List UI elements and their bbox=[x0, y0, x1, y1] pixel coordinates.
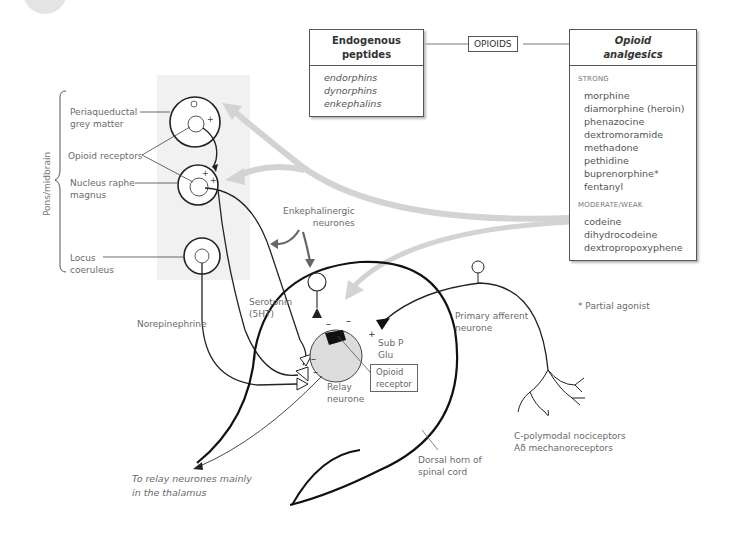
dorsal-horn-label: Dorsal horn of spinal cord bbox=[418, 454, 482, 478]
label-line: in the thalamus bbox=[132, 486, 252, 500]
drug-item: phenazocine bbox=[584, 115, 686, 128]
label-line: neurone bbox=[327, 393, 364, 405]
peptide-item: dynorphins bbox=[324, 84, 413, 97]
raphe-label: Nucleus raphe magnus bbox=[70, 177, 135, 201]
title-line: Endogenous bbox=[314, 34, 419, 48]
label-line: magnus bbox=[70, 189, 135, 201]
drug-item: dihydrocodeine bbox=[584, 228, 686, 241]
section-heading-moderate: MODERATE/WEAK bbox=[578, 199, 686, 212]
raphe-plus-2: + bbox=[210, 176, 217, 185]
label-line: To relay neurones mainly bbox=[132, 472, 252, 486]
drug-item: codeine bbox=[584, 215, 686, 228]
drug-item: fentanyl bbox=[584, 180, 686, 193]
label-line: Dorsal horn of bbox=[418, 454, 482, 466]
drug-item: pethidine bbox=[584, 154, 686, 167]
title-line: Opioid bbox=[574, 34, 692, 48]
enkephalinergic-curved-arrow-1 bbox=[275, 230, 299, 244]
primary-afferent-label: Primary afferent neurone bbox=[455, 310, 528, 334]
pons-midbrain-label: Pons/midbrain bbox=[42, 152, 52, 216]
label-line: (5HT) bbox=[249, 308, 292, 320]
title-line: peptides bbox=[314, 48, 419, 62]
relay-minus-2: – bbox=[346, 315, 351, 326]
raphe-plus-1: + bbox=[202, 169, 209, 178]
nociceptor-branches bbox=[518, 370, 585, 416]
drug-item: dextropropoxyphene bbox=[584, 241, 686, 254]
label-line: Locus bbox=[70, 252, 114, 264]
corner-decoration bbox=[23, 0, 67, 14]
label-line: Nucleus raphe bbox=[70, 177, 135, 189]
opioid-receptor-label: Opioid receptor bbox=[370, 364, 418, 392]
label-line: Aδ mechanoreceptors bbox=[514, 442, 626, 454]
enkephalinergic-terminal bbox=[312, 308, 322, 318]
thalamus-label: To relay neurones mainly in the thalamus bbox=[132, 472, 252, 500]
label-line: Primary afferent bbox=[455, 310, 528, 322]
dorsal-horn-lower bbox=[292, 450, 360, 505]
opioids-connector-label: OPIOIDS bbox=[468, 36, 518, 52]
subp-glu-label: Sub P Glu bbox=[378, 337, 403, 361]
label-line: Sub P bbox=[378, 337, 403, 349]
label-line: Relay bbox=[327, 381, 364, 393]
label-line: Enkephalinergic bbox=[283, 205, 355, 217]
primary-afferent-cell-body bbox=[472, 261, 484, 273]
relay-neurone-label: Relay neurone bbox=[327, 381, 364, 405]
serotonin-label: Serotonin (5HT) bbox=[249, 296, 292, 320]
footnote-partial-agonist: * Partial agonist bbox=[578, 300, 650, 312]
label-line: spinal cord bbox=[418, 466, 482, 478]
label-line: neurone bbox=[455, 322, 528, 334]
pag-plus: + bbox=[207, 115, 214, 124]
enkephalinergic-curved-arrow-2 bbox=[303, 232, 310, 262]
enkephalinergic-cell bbox=[308, 273, 326, 291]
label-line: Glu bbox=[378, 349, 403, 361]
drug-item: dextromoramide bbox=[584, 128, 686, 141]
norepinephrine-label: Norepinephrine bbox=[137, 318, 207, 330]
label-line: neurones bbox=[283, 217, 355, 229]
norepinephrine-axon bbox=[202, 263, 297, 385]
relay-minus-4: – bbox=[313, 366, 318, 377]
raphe-cell bbox=[178, 165, 218, 205]
drug-item: buprenorphine* bbox=[584, 167, 686, 180]
grey-arrow-to-spinal bbox=[355, 222, 570, 285]
opioid-analgesics-box: Opioid analgesics STRONG morphine diamor… bbox=[569, 29, 697, 261]
pons-midbrain-brace bbox=[55, 91, 66, 272]
opioid-analgesics-title: Opioid analgesics bbox=[570, 30, 696, 66]
peptide-item: endorphins bbox=[324, 71, 413, 84]
drug-item: methadone bbox=[584, 141, 686, 154]
label-line: coeruleus bbox=[70, 264, 114, 276]
peptide-item: enkephalins bbox=[324, 97, 413, 110]
drug-item: diamorphine (heroin) bbox=[584, 102, 686, 115]
label-line: Serotonin bbox=[249, 296, 292, 308]
label-line: receptor bbox=[376, 378, 412, 390]
label-line: grey matter bbox=[70, 118, 137, 130]
endogenous-peptides-box: Endogenous peptides endorphins dynorphin… bbox=[309, 29, 424, 117]
title-line: analgesics bbox=[574, 48, 692, 62]
locus-coeruleus-label: Locus coeruleus bbox=[70, 252, 114, 276]
section-heading-strong: STRONG bbox=[578, 73, 686, 86]
label-line: C-polymodal nociceptors bbox=[514, 430, 626, 442]
relay-minus-1: – bbox=[326, 318, 331, 329]
label-line: Opioid bbox=[376, 366, 412, 378]
enkephalinergic-arrowhead-1 bbox=[270, 239, 278, 249]
enkephalinergic-arrowhead-2 bbox=[305, 259, 315, 268]
endogenous-peptides-title: Endogenous peptides bbox=[310, 30, 423, 66]
opioid-receptors-label: Opioid receptors bbox=[68, 150, 143, 162]
drug-item: morphine bbox=[584, 89, 686, 102]
relay-output-axon bbox=[200, 376, 322, 466]
nociceptors-label: C-polymodal nociceptors Aδ mechanorecept… bbox=[514, 430, 626, 454]
relay-plus: + bbox=[368, 329, 376, 339]
relay-minus-3: – bbox=[311, 353, 316, 364]
primary-afferent-terminal bbox=[376, 318, 390, 330]
label-line: Periaqueductal bbox=[70, 106, 137, 118]
periaqueductal-label: Periaqueductal grey matter bbox=[70, 106, 137, 130]
enkephalinergic-label: Enkephalinergic neurones bbox=[283, 205, 355, 229]
